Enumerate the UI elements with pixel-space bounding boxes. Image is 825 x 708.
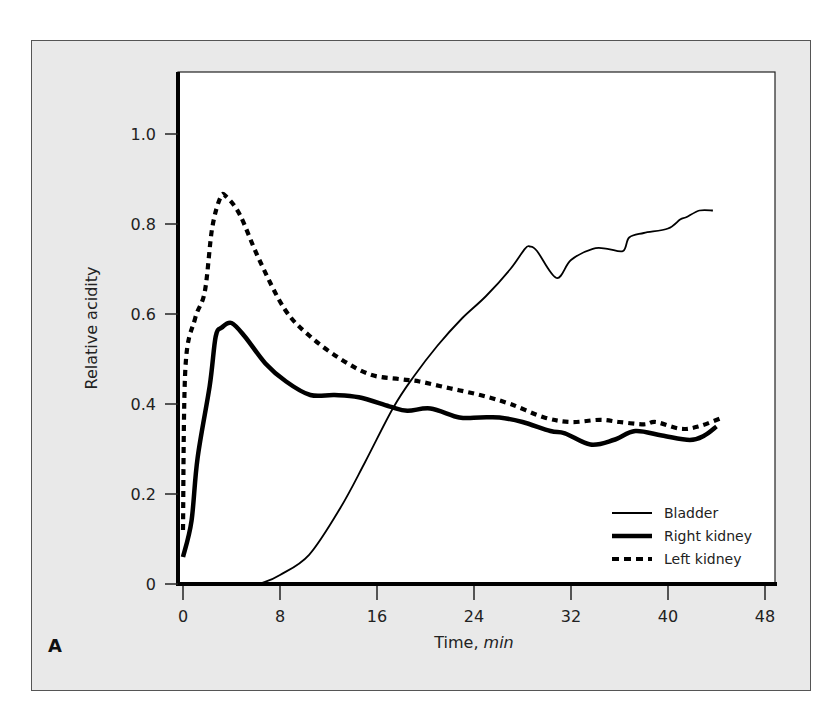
panel-letter: A [48,635,62,656]
x-tick-label: 16 [367,607,387,626]
x-tick-label: 48 [755,607,775,626]
x-axis-label: Time, min [433,633,514,652]
y-tick-label: 0.2 [131,485,156,504]
line-chart: 00.20.40.60.81.0 081624324048 Relative a… [0,0,825,708]
y-tick-label: 0.4 [131,395,156,414]
x-axis-label-unit: min [484,633,514,652]
y-tick-label: 1.0 [131,125,156,144]
legend-label: Left kidney [664,551,741,567]
legend-label: Right kidney [664,528,752,544]
y-tick-label: 0 [146,575,156,594]
y-axis-label: Relative acidity [82,267,101,390]
x-ticks: 081624324048 [178,586,775,626]
x-tick-label: 32 [561,607,581,626]
legend-label: Bladder [664,505,718,521]
y-tick-label: 0.8 [131,215,156,234]
x-tick-label: 40 [658,607,678,626]
y-ticks: 00.20.40.60.81.0 [131,125,178,594]
y-tick-label: 0.6 [131,305,156,324]
x-axis-label-text: Time, [433,633,478,652]
x-tick-label: 0 [178,607,188,626]
x-tick-label: 8 [275,607,285,626]
x-tick-label: 24 [464,607,484,626]
